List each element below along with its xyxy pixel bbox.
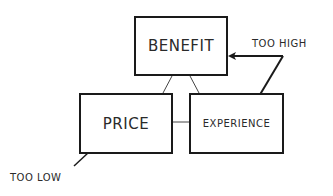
node-benefit-label: BENEFIT [148,37,214,55]
annotation-too-high: TOO HIGH [252,38,307,49]
node-price-label: PRICE [103,115,149,133]
edge-benefit-price [163,76,172,93]
node-experience-label: EXPERIENCE [203,118,271,129]
node-experience: EXPERIENCE [189,93,284,154]
edge-benefit-experience [190,76,199,93]
node-price: PRICE [79,93,173,154]
node-benefit: BENEFIT [134,16,228,76]
annotation-too-low: TOO LOW [10,172,62,183]
